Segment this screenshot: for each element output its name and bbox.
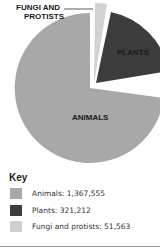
- legend-item-plants: Plants: 321,212: [10, 204, 91, 216]
- legend-title: Key: [9, 172, 27, 183]
- bottom-divider: [0, 246, 160, 247]
- legend-swatch-plants: [10, 205, 22, 216]
- legend-label-fungi: Fungi and protists: 51,563: [32, 222, 130, 231]
- label-animals: ANIMALS: [72, 113, 109, 122]
- legend-label-plants: Plants: 321,212: [32, 206, 91, 215]
- pie-chart: FUNGI AND PROTISTS PLANTS ANIMALS: [0, 0, 160, 170]
- legend-swatch-fungi: [10, 221, 22, 232]
- label-fungi-line1: FUNGI AND: [16, 3, 60, 12]
- legend-label-animals: Animals: 1,367,555: [32, 189, 105, 198]
- label-plants: PLANTS: [117, 48, 150, 57]
- legend-item-fungi: Fungi and protists: 51,563: [10, 220, 130, 232]
- legend-swatch-animals: [10, 188, 22, 199]
- label-fungi-line2: PROTISTS: [24, 12, 65, 21]
- legend-item-animals: Animals: 1,367,555: [10, 187, 105, 199]
